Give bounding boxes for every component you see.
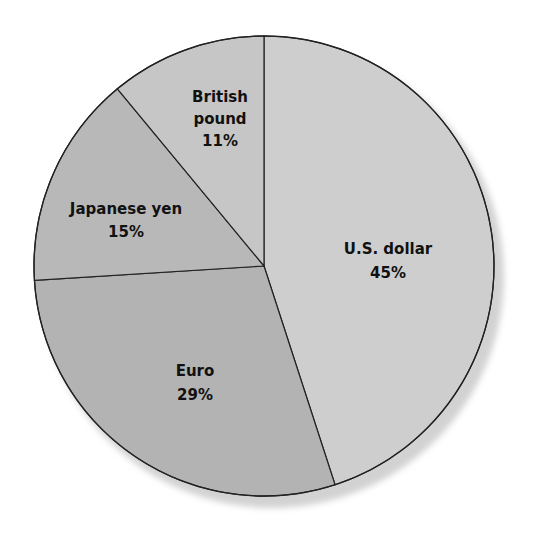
- pie-chart: British pound 11% Japanese yen 15% U.S. …: [0, 0, 553, 534]
- label-eur-value: 29%: [177, 386, 213, 404]
- label-jpy-line1: Japanese yen: [69, 200, 182, 218]
- label-usd-value: 45%: [370, 264, 406, 282]
- label-gbp-value: 11%: [202, 132, 238, 150]
- pie-slices: [34, 36, 494, 496]
- label-usd-line1: U.S. dollar: [344, 240, 433, 258]
- label-jpy-value: 15%: [108, 223, 144, 241]
- label-gbp-line1: British: [192, 88, 248, 106]
- label-eur-line1: Euro: [176, 362, 215, 380]
- label-gbp-line2: pound: [193, 110, 246, 128]
